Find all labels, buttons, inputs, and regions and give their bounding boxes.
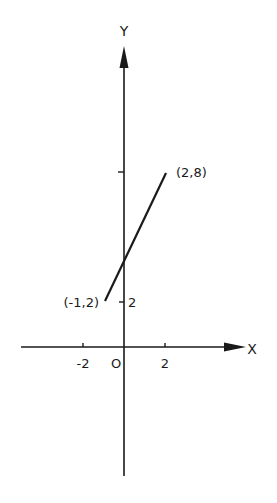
y-tick-label-2: 2 xyxy=(128,295,136,310)
y-axis-label: Y xyxy=(119,23,129,39)
y-axis-arrow-icon xyxy=(120,46,129,68)
x-axis-arrow-icon xyxy=(224,343,246,352)
origin-label: O xyxy=(111,356,121,371)
end-point-label: (2,8) xyxy=(176,165,207,180)
x-axis-label: X xyxy=(247,341,257,357)
start-point-label: (-1,2) xyxy=(63,295,99,310)
coordinate-plane: Y X -2 2 O 2 (-1,2) (2,8) xyxy=(0,0,277,503)
x-tick-label-neg2: -2 xyxy=(77,356,90,371)
line-segment xyxy=(105,173,166,301)
x-tick-label-2: 2 xyxy=(161,356,169,371)
